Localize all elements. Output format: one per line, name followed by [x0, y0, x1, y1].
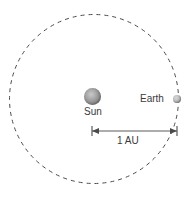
au-left-arrowhead	[92, 128, 99, 134]
sun-label: Sun	[79, 106, 107, 117]
orbit-diagram: Sun Earth 1 AU	[0, 0, 191, 200]
au-distance-label: 1 AU	[117, 135, 139, 146]
au-right-arrowhead	[170, 128, 177, 134]
sun-icon	[84, 88, 101, 105]
earth-icon	[173, 95, 181, 103]
earth-label: Earth	[140, 93, 164, 104]
